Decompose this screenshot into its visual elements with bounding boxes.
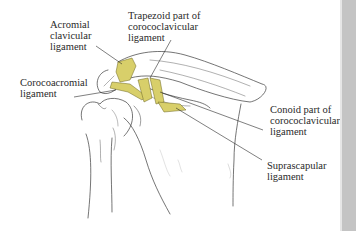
shoulder-diagram: Acromial clavicular ligament Trapezoid p… [0, 0, 356, 231]
conoid-ligament [150, 78, 164, 104]
label-suprascapular-ligament: Suprascapular ligament [267, 160, 326, 182]
page-edge-bar [342, 0, 356, 231]
leader-suprascapular [176, 108, 262, 160]
leader-trapezoid [150, 40, 171, 78]
ligaments [110, 58, 186, 112]
label-conoid-part: Conoid part of corococlavicular ligament [270, 104, 340, 137]
leader-acromial-clavicular [96, 46, 122, 64]
label-acromial-clavicular-ligament: Acromial clavicular ligament [50, 19, 91, 52]
humerus-head-outline [81, 98, 132, 136]
suprascapular-ligament [158, 102, 186, 112]
humerus-shaft [86, 134, 91, 218]
scapula-border [124, 118, 170, 214]
label-trapezoid-part: Trapezoid part of corococlavicular ligam… [128, 10, 201, 43]
label-corocoacromial-ligament: Corocoacromial ligament [20, 77, 88, 99]
